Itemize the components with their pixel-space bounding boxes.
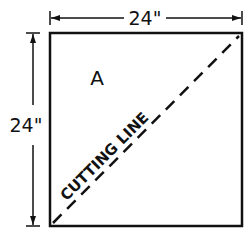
piece-label: A — [90, 66, 104, 90]
width-dimension: 24" — [50, 7, 242, 29]
cutting-diagram: 24" 24" A CUTTING LINE — [0, 0, 252, 239]
arrow-up-icon — [30, 34, 36, 43]
cutting-line — [53, 36, 239, 223]
arrow-down-icon — [30, 216, 36, 225]
arrow-left-icon — [51, 15, 60, 21]
height-label: 24" — [10, 114, 43, 136]
arrow-right-icon — [232, 15, 241, 21]
cutting-line-label: CUTTING LINE — [57, 109, 153, 205]
width-label: 24" — [129, 7, 162, 29]
height-dimension: 24" — [10, 33, 43, 226]
